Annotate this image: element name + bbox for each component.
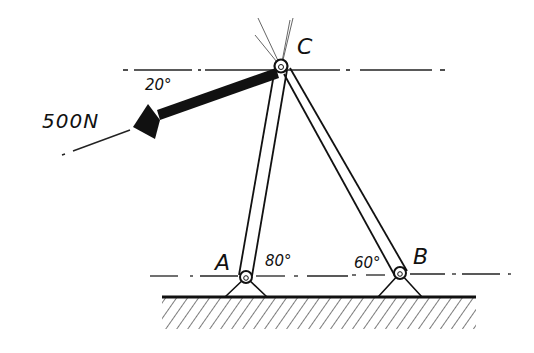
angle-label-b: 60° [354, 254, 381, 272]
frame-diagram [0, 0, 534, 353]
angle-label-load: 20° [145, 76, 172, 94]
ground [162, 297, 476, 329]
force-magnitude-label: 500N [42, 109, 99, 133]
pin-b [394, 267, 406, 279]
label-b: B [413, 244, 428, 269]
label-a: A [215, 250, 230, 275]
member-ac [239, 68, 287, 276]
centerline-bottom [150, 274, 511, 276]
pin-c [275, 60, 288, 73]
member-bc [284, 68, 407, 276]
angle-label-a: 80° [265, 252, 292, 270]
construction-lines [255, 18, 293, 67]
pin-a [240, 271, 252, 283]
label-c: C [297, 34, 312, 59]
